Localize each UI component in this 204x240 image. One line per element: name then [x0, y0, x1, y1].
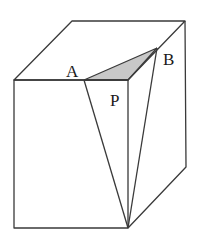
top-face [14, 21, 185, 80]
segment-a-bottom [84, 80, 128, 228]
shaded-triangle [84, 48, 157, 80]
label-b: B [163, 50, 174, 69]
cuboid-diagram: A B P [0, 0, 204, 240]
label-a: A [66, 62, 79, 81]
label-p: P [110, 91, 119, 110]
